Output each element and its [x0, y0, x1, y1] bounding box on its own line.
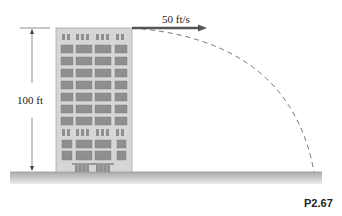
velocity-arrow [132, 25, 207, 32]
entrance [72, 163, 114, 165]
velocity-label: 50 ft/s [162, 13, 190, 25]
height-label: 100 ft [17, 94, 43, 106]
trajectory-path [132, 28, 314, 172]
building [56, 28, 132, 172]
projectile-diagram [0, 0, 342, 216]
figure-label: P2.67 [304, 197, 333, 209]
ground [10, 172, 322, 184]
